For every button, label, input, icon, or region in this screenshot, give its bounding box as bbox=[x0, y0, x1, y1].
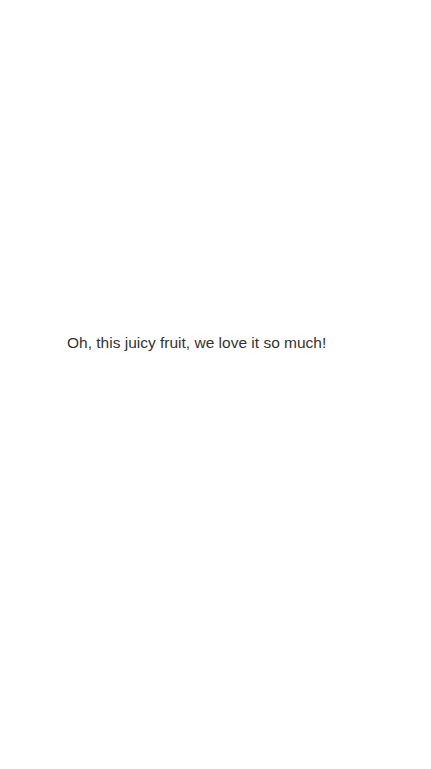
screen: Oh, this juicy fruit, we love it so much… bbox=[0, 0, 431, 769]
message-text: Oh, this juicy fruit, we love it so much… bbox=[67, 333, 326, 353]
